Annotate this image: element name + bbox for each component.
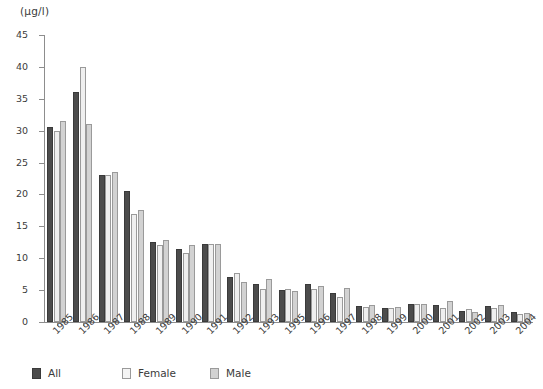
bar-female-1993 <box>260 289 266 322</box>
y-tick <box>39 131 44 132</box>
bar-female-1988 <box>131 214 137 322</box>
bar-all-1993 <box>253 284 259 322</box>
bar-group <box>356 35 375 322</box>
legend-item-male[interactable]: Male <box>210 367 251 379</box>
bar-female-1991 <box>208 244 214 322</box>
bar-female-1996 <box>311 289 317 322</box>
chart-legend: AllFemaleMale <box>32 366 292 380</box>
bar-all-1985 <box>47 127 53 322</box>
bar-group <box>408 35 427 322</box>
bar-group <box>47 35 66 322</box>
y-tick <box>39 35 44 36</box>
bar-male-1987 <box>112 172 118 322</box>
y-tick <box>39 290 44 291</box>
y-tick-label: 45 <box>4 30 28 40</box>
y-tick <box>39 226 44 227</box>
bar-group <box>485 35 504 322</box>
y-tick <box>39 163 44 164</box>
bar-group <box>305 35 324 322</box>
bar-female-1985 <box>54 131 60 322</box>
bar-all-1988 <box>124 191 130 322</box>
bar-male-1985 <box>60 121 66 322</box>
y-tick <box>39 99 44 100</box>
bar-chart: (µg/l) 051015202530354045 19851986198719… <box>0 0 543 389</box>
bar-female-1992 <box>234 273 240 322</box>
legend-swatch-female <box>122 368 131 379</box>
legend-item-all[interactable]: All <box>32 367 61 379</box>
bar-group <box>73 35 92 322</box>
bar-all-1989 <box>150 242 156 322</box>
bar-group <box>279 35 298 322</box>
y-tick <box>39 194 44 195</box>
y-tick-label: 15 <box>4 221 28 231</box>
bar-group <box>382 35 401 322</box>
y-tick-label: 20 <box>4 189 28 199</box>
y-tick <box>39 258 44 259</box>
bar-male-1991 <box>215 244 221 322</box>
y-tick-label: 30 <box>4 126 28 136</box>
bar-all-1987 <box>99 175 105 322</box>
y-tick-label: 10 <box>4 253 28 263</box>
bar-all-1990 <box>176 249 182 322</box>
bar-group <box>176 35 195 322</box>
y-tick-label: 40 <box>4 62 28 72</box>
bar-all-2002 <box>459 311 465 322</box>
legend-label-female: Female <box>138 367 176 379</box>
legend-swatch-all <box>32 368 41 379</box>
bar-group <box>150 35 169 322</box>
bar-male-1988 <box>138 210 144 322</box>
bar-female-1986 <box>80 67 86 322</box>
bar-all-1996 <box>305 284 311 322</box>
bar-group <box>202 35 221 322</box>
y-tick-label: 35 <box>4 94 28 104</box>
y-tick <box>39 322 44 323</box>
bar-all-1991 <box>202 244 208 322</box>
legend-label-all: All <box>48 367 61 379</box>
bar-group <box>99 35 118 322</box>
bar-group <box>330 35 349 322</box>
bar-group <box>433 35 452 322</box>
bar-male-1990 <box>189 245 195 322</box>
legend-swatch-male <box>210 368 219 379</box>
bar-group <box>227 35 246 322</box>
bar-female-1987 <box>105 175 111 322</box>
bar-male-1989 <box>163 240 169 322</box>
legend-label-male: Male <box>226 367 251 379</box>
y-tick-label: 0 <box>4 317 28 327</box>
bar-group <box>511 35 530 322</box>
bar-female-1989 <box>157 245 163 322</box>
y-tick-label: 25 <box>4 158 28 168</box>
bar-female-1995 <box>285 289 291 322</box>
bar-all-1986 <box>73 92 79 322</box>
bar-group <box>253 35 272 322</box>
bar-female-1990 <box>183 253 189 322</box>
bar-group <box>459 35 478 322</box>
y-tick <box>39 67 44 68</box>
y-axis-unit-label: (µg/l) <box>20 5 49 17</box>
y-tick-label: 5 <box>4 285 28 295</box>
bar-all-1992 <box>227 277 233 322</box>
y-axis-line <box>44 35 45 322</box>
bar-group <box>124 35 143 322</box>
bar-male-1986 <box>86 124 92 322</box>
legend-item-female[interactable]: Female <box>122 367 176 379</box>
plot-area: 051015202530354045 <box>44 35 533 322</box>
